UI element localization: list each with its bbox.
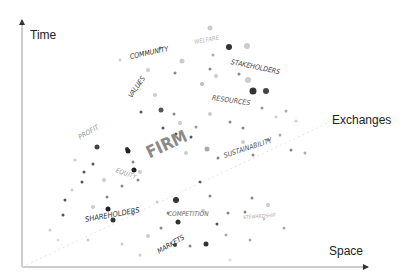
- scatter-dot: [64, 199, 67, 202]
- scatter-dot: [290, 149, 293, 152]
- scatter-dot: [121, 185, 124, 188]
- scatter-dot: [92, 163, 95, 166]
- scatter-dot: [216, 223, 219, 226]
- scatter-dot: [242, 127, 245, 130]
- scatter-dot: [283, 227, 286, 230]
- scatter-dot: [102, 178, 106, 182]
- scatter-dot: [241, 140, 245, 144]
- scatter-dot: [87, 239, 90, 242]
- scatter-dot: [176, 220, 181, 225]
- scatter-dot: [95, 145, 100, 150]
- scatter-dot: [208, 112, 212, 116]
- scatter-dot: [162, 127, 165, 130]
- scatter-dot: [295, 120, 298, 123]
- scatter-dot: [261, 107, 264, 110]
- concept-word-competition: COMPETITION: [168, 210, 209, 218]
- scatter-dot: [71, 189, 74, 192]
- scatter-dot: [214, 74, 218, 78]
- scatter-dot: [57, 239, 60, 242]
- scatter-dot: [184, 151, 188, 155]
- scatter-dot: [245, 77, 251, 83]
- scatter-dot: [173, 113, 176, 116]
- scatter-dot: [91, 205, 95, 209]
- scatter-dot: [138, 170, 142, 174]
- scatter-dot: [121, 243, 124, 246]
- scatter-dot: [49, 229, 52, 232]
- scatter-dot: [146, 68, 150, 72]
- scatter-dot: [251, 197, 254, 200]
- scatter-dot: [83, 171, 86, 174]
- scatter-dot: [252, 154, 255, 157]
- scatter-dot: [279, 134, 282, 137]
- scatter-dot: [132, 161, 135, 164]
- scatter-dot: [263, 88, 269, 94]
- scatter-dot: [189, 245, 192, 248]
- scatter-dot: [159, 108, 164, 113]
- scatter-dot: [119, 59, 122, 62]
- scatter-dot: [146, 234, 150, 238]
- scatter-dot: [180, 59, 185, 64]
- scatter-dot: [266, 203, 270, 207]
- time-axis-label: Time: [30, 28, 56, 42]
- scatter-dot: [204, 242, 209, 247]
- scatter-dot: [229, 259, 232, 262]
- scatter-dot: [200, 82, 204, 86]
- scatter-dot: [81, 181, 84, 184]
- scatter-dot: [229, 121, 232, 124]
- scatter-dot: [140, 111, 143, 114]
- scatter-dot: [238, 73, 241, 76]
- exchanges-axis-label: Exchanges: [332, 113, 391, 127]
- scatter-dot: [106, 196, 109, 199]
- space-axis-label: Space: [329, 244, 363, 258]
- scatter-dot: [173, 197, 179, 203]
- scatter-dot: [195, 126, 198, 129]
- scatter-dot: [174, 72, 177, 75]
- scatter-dot: [226, 44, 232, 50]
- scatter-dot: [250, 88, 257, 95]
- scatter-dot: [126, 149, 131, 154]
- scatter-dot: [208, 26, 213, 31]
- scatter-dot: [209, 68, 212, 71]
- scatter-dot: [205, 147, 210, 152]
- scatter-dot: [244, 43, 250, 49]
- scatter-dot: [137, 179, 140, 182]
- scatter-dot: [209, 195, 212, 198]
- scatter-dot: [178, 121, 182, 125]
- scatter-dot: [275, 116, 278, 119]
- scatter-dot: [62, 214, 65, 217]
- scatter-dot: [285, 110, 288, 113]
- scatter-dot: [249, 239, 252, 242]
- scatter-dot: [139, 254, 142, 257]
- scatter-dot: [160, 227, 163, 230]
- scatter-dot: [212, 54, 215, 57]
- scatter-dot: [304, 152, 307, 155]
- scatter-dot: [153, 93, 157, 97]
- scatter-dot: [217, 157, 220, 160]
- scatter-dot: [227, 212, 230, 215]
- scatter-dot: [190, 136, 193, 139]
- scatter-dot: [74, 159, 77, 162]
- scatter-dot: [225, 234, 228, 237]
